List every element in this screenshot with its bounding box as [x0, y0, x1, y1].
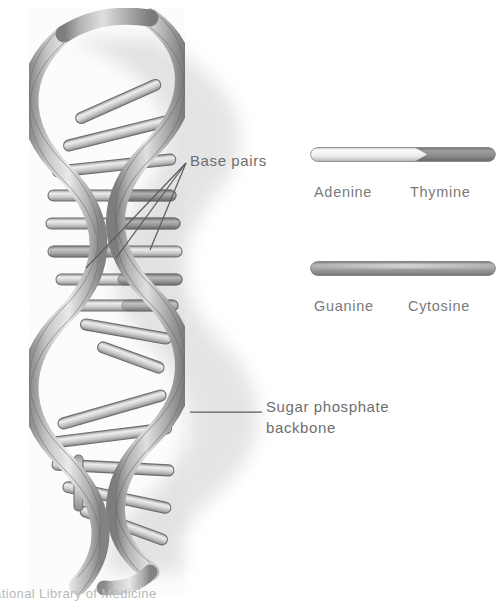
dna-diagram-canvas: Base pairs Sugar phosphate backbone: [0, 0, 504, 605]
legend-label-thymine: Thymine: [410, 184, 471, 200]
sugar-phosphate-backbone-label: Sugar phosphate backbone: [266, 396, 426, 438]
sugar-phosphate-line-1: Sugar phosphate: [266, 398, 389, 415]
source-credit: ational Library of Medicine: [0, 586, 157, 601]
legend-bar-guanine-cytosine: [310, 261, 496, 276]
legend-bar-adenine-thymine: [310, 147, 496, 162]
base-pairs-label: Base pairs: [190, 151, 267, 170]
sugar-phosphate-line-2: backbone: [266, 419, 336, 436]
legend-label-cytosine: Cytosine: [408, 298, 470, 314]
legend-label-adenine: Adenine: [314, 184, 372, 200]
legend-label-guanine: Guanine: [314, 298, 374, 314]
